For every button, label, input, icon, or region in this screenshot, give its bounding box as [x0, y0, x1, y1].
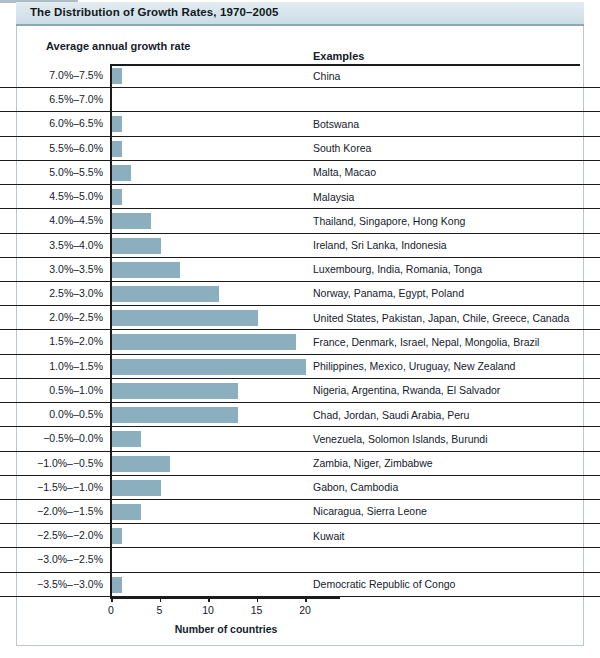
growth-rate-column-header: Average annual growth rate [46, 40, 190, 52]
examples-column-header: Examples [313, 50, 364, 62]
figure-title-band: The Distribution of Growth Rates, 1970–2… [16, 2, 584, 26]
figure-frame [16, 2, 584, 646]
figure-page: The Distribution of Growth Rates, 1970–2… [0, 0, 600, 658]
figure-title: The Distribution of Growth Rates, 1970–2… [30, 6, 278, 18]
